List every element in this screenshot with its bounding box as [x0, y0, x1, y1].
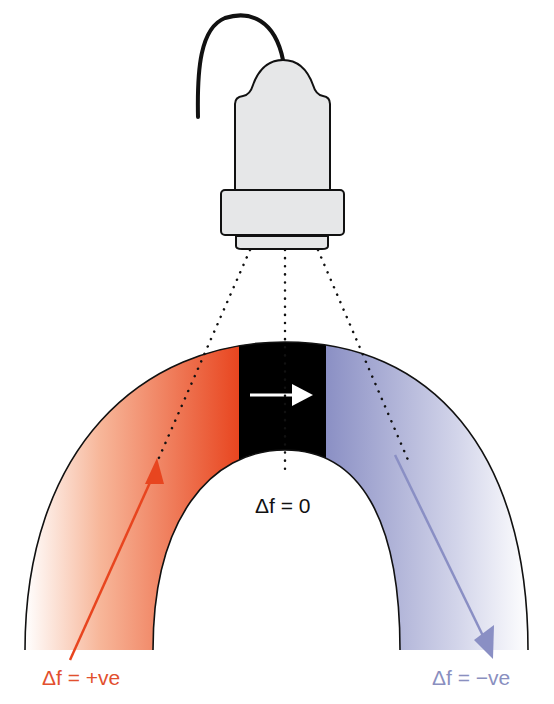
doppler-diagram: Δf = 0 Δf = +ve Δf = −ve — [0, 0, 554, 704]
probe-icon — [221, 60, 344, 249]
diagram-graphic — [0, 0, 554, 704]
label-positive-shift: Δf = +ve — [42, 666, 120, 690]
away-region — [325, 330, 554, 660]
label-negative-shift: Δf = −ve — [432, 666, 510, 690]
toward-region — [0, 330, 240, 660]
label-zero-shift: Δf = 0 — [255, 494, 310, 518]
